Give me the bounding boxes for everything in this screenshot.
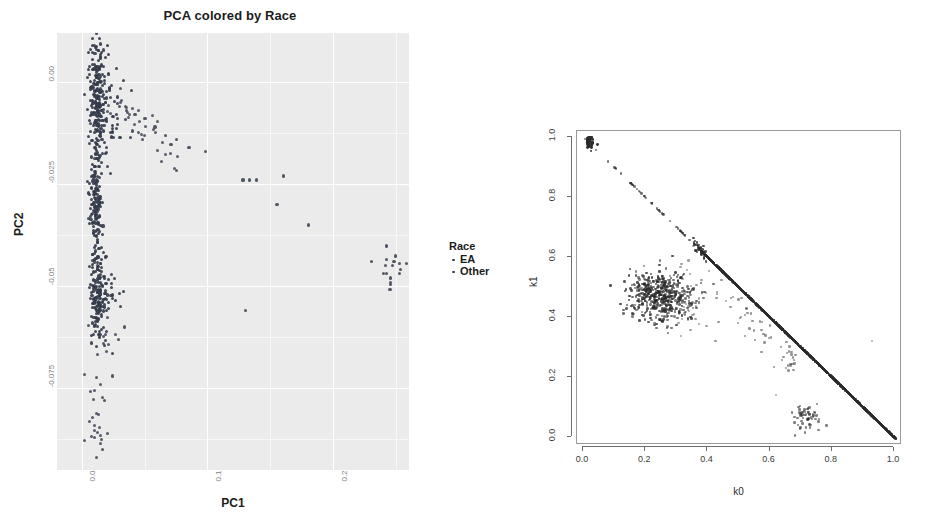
x-tick-mark [582,447,583,451]
data-point [97,303,100,306]
data-point [106,44,109,47]
data-point [114,299,117,302]
data-point [591,142,594,145]
x-axis-line [582,446,893,447]
data-point [637,285,640,288]
data-point [730,297,732,299]
grid-line-minor [57,235,409,236]
x-tick-mark [769,447,770,451]
data-point [619,303,622,306]
data-point [646,304,649,307]
data-point [100,313,103,316]
data-point [688,310,690,312]
data-point [117,338,120,341]
data-point [675,324,678,327]
data-point [705,292,707,294]
data-point [789,364,791,366]
data-point [98,215,101,218]
data-point [94,209,97,212]
data-point [625,307,628,310]
data-point [99,442,102,445]
data-point [99,262,102,265]
data-point [773,366,775,368]
data-point [389,276,392,279]
data-point [144,125,147,128]
data-point [106,432,109,435]
admixture-y-axis-title: k1 [528,276,539,287]
data-point [125,109,128,112]
admixture-chart: k1 k0 0.00.20.40.60.81.0 0.00.20.40.60.8… [480,0,945,530]
data-point [646,307,649,310]
data-point [737,322,739,324]
data-point [688,239,690,241]
data-point [638,306,641,309]
data-point [788,350,790,352]
data-point [654,292,657,295]
data-point [716,293,718,295]
x-tick-label: 0.4 [692,454,720,464]
data-point [114,333,117,336]
data-point [665,304,668,307]
data-point [673,315,676,318]
data-point [590,150,593,153]
data-point [653,324,656,327]
data-point [101,84,104,87]
data-point [103,305,106,308]
data-point [680,335,682,337]
data-point [633,185,635,187]
data-point [645,197,647,199]
data-point [635,270,638,273]
data-point [87,68,90,71]
data-point [739,287,741,289]
data-point [703,257,706,260]
data-point [115,127,118,130]
data-point [768,315,770,317]
data-point [857,401,859,403]
data-point [113,277,116,280]
data-point [164,134,167,137]
data-point [105,151,108,154]
data-point [641,303,644,306]
data-point [161,141,164,144]
data-point [695,284,697,286]
data-point [109,131,112,134]
data-point [792,369,794,371]
data-point [761,321,763,323]
x-tick-label: 0.1 [213,470,222,481]
data-point [106,316,109,319]
data-point [88,420,91,423]
data-point [667,315,670,318]
data-point [307,223,310,226]
data-point [92,279,95,282]
data-point [389,283,392,286]
data-point [99,42,102,45]
data-point [626,304,629,307]
data-point [102,342,105,345]
data-point [175,138,178,141]
data-point [676,285,679,288]
data-point [699,247,702,250]
data-point [645,272,648,275]
data-point [649,289,652,292]
y-axis-line [571,136,572,436]
data-point [667,332,670,335]
data-point [764,334,766,336]
data-point [392,260,395,263]
data-point [119,87,122,90]
data-point [109,112,112,115]
data-point [153,125,156,128]
data-point [104,56,107,59]
data-point [119,101,122,104]
data-point [169,152,172,155]
data-point [644,318,647,321]
data-point [122,290,125,293]
data-point [648,276,651,279]
x-tick-label: 0.2 [339,470,348,481]
data-point [130,89,133,92]
data-point [658,264,661,267]
grid-line-major [57,82,409,83]
data-point [92,333,95,336]
data-point [751,320,753,322]
data-point [629,268,632,271]
data-point [176,155,179,158]
